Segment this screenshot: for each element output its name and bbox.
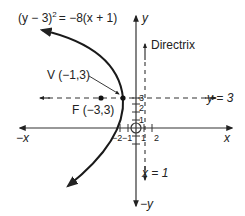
x-tick-label: 1 — [141, 133, 146, 143]
equation-label: (y − 3)2= −8(x + 1) — [18, 10, 117, 25]
focus-point — [98, 95, 103, 100]
y-tick-label: 1 — [139, 115, 144, 125]
directrix-label: Directrix — [151, 38, 195, 52]
x-tick-label: −1 — [122, 133, 132, 143]
parabola-diagram: (y − 3)2= −8(x + 1) V (−1,3) F (−3,3) Di… — [0, 0, 245, 216]
y-tick-label: 3 — [139, 93, 144, 103]
vertex-label: V (−1,3) — [47, 68, 90, 82]
y-neg-axis-label: −y — [140, 197, 154, 211]
vertex-pointer-arrow — [89, 76, 119, 94]
x-axis-label: x — [223, 131, 231, 145]
x-tick-label: −2 — [112, 133, 122, 143]
directrix-equation-label: x = 1 — [141, 166, 168, 180]
y-axis-label: y — [141, 11, 149, 25]
focus-label: F (−3,3) — [72, 103, 114, 117]
vertex-point — [120, 95, 125, 100]
y-tick-label: 2 — [139, 103, 144, 113]
symmetry-equation-label: y = 3 — [206, 91, 234, 105]
x-neg-axis-label: −x — [16, 131, 30, 145]
x-tick-label: 2 — [154, 133, 159, 143]
